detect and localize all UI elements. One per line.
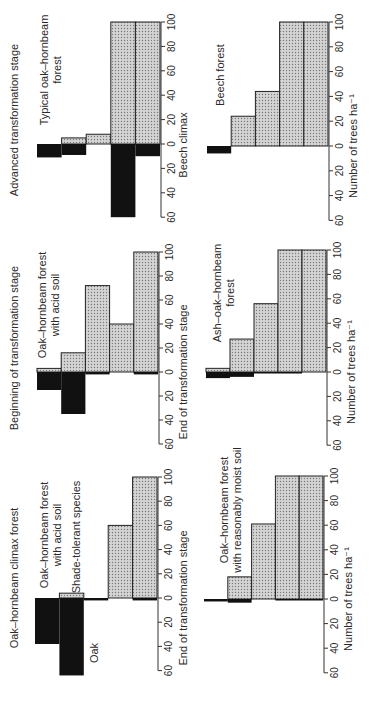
bar-shade-tolerant bbox=[62, 138, 87, 144]
forest-transformation-figure: Advanced transformation stage Beginning … bbox=[0, 0, 370, 713]
bar-shade-tolerant bbox=[252, 524, 276, 599]
panel-top-left: 604020020406080100 bbox=[37, 13, 177, 223]
tick-label: 60 bbox=[163, 665, 174, 677]
stage-label-advanced: Advanced transformation stage bbox=[8, 44, 20, 196]
tick-label: 20 bbox=[164, 342, 175, 354]
bar-oak bbox=[35, 598, 59, 644]
bar-oak bbox=[61, 372, 85, 414]
xlabel: Number of trees ha⁻¹ bbox=[345, 320, 357, 424]
bar-shade-tolerant bbox=[275, 476, 299, 599]
tick-label: 20 bbox=[332, 342, 343, 354]
bar-shade-tolerant bbox=[37, 368, 61, 372]
bar-oak bbox=[254, 372, 278, 374]
panel-title: Beech forest bbox=[214, 44, 226, 106]
tick-label: 60 bbox=[329, 667, 340, 679]
bar-shade-tolerant bbox=[110, 324, 134, 372]
xlabel: Number of trees ha⁻¹ bbox=[342, 547, 354, 651]
bar-shade-tolerant bbox=[61, 353, 85, 372]
bar-shade-tolerant bbox=[228, 577, 252, 599]
panel-middle-right: 604020020406080100 bbox=[206, 241, 343, 451]
bar-oak bbox=[133, 598, 157, 600]
tick-label: 0 bbox=[332, 369, 343, 375]
tick-label: 80 bbox=[164, 270, 175, 282]
stage-label-beginning: Beginning of transformation stage bbox=[8, 266, 20, 431]
bar-shade-tolerant bbox=[230, 339, 254, 372]
tick-label: 60 bbox=[334, 214, 345, 226]
tick-label: 20 bbox=[334, 165, 345, 177]
tick-label: 60 bbox=[166, 65, 177, 77]
bar-shade-tolerant bbox=[278, 250, 302, 372]
tick-label: 20 bbox=[334, 115, 345, 127]
tick-label: 80 bbox=[334, 41, 345, 53]
bar-shade-tolerant bbox=[254, 304, 278, 372]
xlabel: End of transformation stage bbox=[177, 530, 189, 665]
tick-label: 40 bbox=[164, 318, 175, 330]
tick-label: 0 bbox=[334, 143, 345, 149]
tick-label: 20 bbox=[329, 568, 340, 580]
bar-oak bbox=[134, 372, 158, 374]
bar-shade-tolerant bbox=[108, 525, 132, 598]
tick-label: 100 bbox=[332, 241, 343, 258]
bar-oak bbox=[37, 144, 62, 157]
xlabel: Beech climax bbox=[177, 112, 189, 178]
panel-bottom-left: 604020020406080100 bbox=[35, 468, 174, 676]
bar-shade-tolerant bbox=[280, 22, 304, 146]
bar-oak bbox=[62, 144, 87, 155]
tick-label: 40 bbox=[166, 187, 177, 199]
panel-title: forest bbox=[224, 279, 236, 307]
tick-label: 40 bbox=[329, 544, 340, 556]
panel-title: Oak–hornbeam forest bbox=[218, 457, 230, 563]
bar-shade-tolerant bbox=[134, 252, 158, 372]
bar-oak bbox=[299, 599, 323, 601]
tick-label: 20 bbox=[166, 114, 177, 126]
tick-label: 80 bbox=[163, 495, 174, 507]
tick-label: 100 bbox=[166, 13, 177, 30]
bar-shade-tolerant bbox=[111, 22, 136, 144]
tick-label: 40 bbox=[334, 190, 345, 202]
bar-oak bbox=[275, 599, 299, 601]
bar-oak bbox=[204, 599, 228, 601]
tick-label: 40 bbox=[334, 90, 345, 102]
bar-oak bbox=[228, 599, 252, 603]
tick-label: 60 bbox=[329, 519, 340, 531]
bar-shade-tolerant bbox=[302, 250, 326, 372]
bar-shade-tolerant bbox=[231, 116, 255, 146]
tick-label: 0 bbox=[166, 141, 177, 147]
tick-label: 40 bbox=[329, 642, 340, 654]
bar-oak bbox=[206, 372, 230, 378]
tick-label: 0 bbox=[329, 596, 340, 602]
tick-label: 40 bbox=[164, 414, 175, 426]
legend-oak: Oak bbox=[88, 642, 100, 663]
bar-oak bbox=[135, 144, 160, 156]
bar-shade-tolerant bbox=[86, 134, 111, 144]
tick-label: 80 bbox=[329, 495, 340, 507]
tick-label: 100 bbox=[163, 468, 174, 485]
tick-label: 40 bbox=[163, 640, 174, 652]
tick-label: 100 bbox=[164, 243, 175, 260]
bar-oak bbox=[85, 372, 109, 374]
tick-label: 20 bbox=[329, 618, 340, 630]
tick-label: 40 bbox=[163, 544, 174, 556]
panel-title: Oak–hornbeam forest bbox=[38, 482, 50, 588]
tick-label: 80 bbox=[332, 268, 343, 280]
tick-label: 100 bbox=[334, 13, 345, 30]
panel-title: with reasonably moist soil bbox=[231, 447, 243, 573]
tick-label: 60 bbox=[334, 66, 345, 78]
tick-label: 20 bbox=[163, 568, 174, 580]
bar-shade-tolerant bbox=[135, 22, 160, 144]
xlabel: Number of trees ha⁻¹ bbox=[347, 94, 359, 198]
bar-shade-tolerant bbox=[85, 286, 109, 372]
panel-title: forest bbox=[51, 56, 63, 84]
tick-label: 0 bbox=[163, 595, 174, 601]
tick-label: 60 bbox=[332, 439, 343, 451]
bar-oak bbox=[37, 372, 61, 390]
stage-label-climax: Oak–hornbeam climax forest bbox=[8, 508, 20, 649]
tick-label: 40 bbox=[332, 415, 343, 427]
tick-label: 60 bbox=[332, 293, 343, 305]
tick-label: 20 bbox=[166, 162, 177, 174]
tick-label: 0 bbox=[164, 369, 175, 375]
tick-label: 100 bbox=[329, 467, 340, 484]
tick-label: 20 bbox=[164, 390, 175, 402]
bar-shade-tolerant bbox=[133, 477, 157, 598]
panel-title: with acid soil bbox=[51, 504, 63, 567]
